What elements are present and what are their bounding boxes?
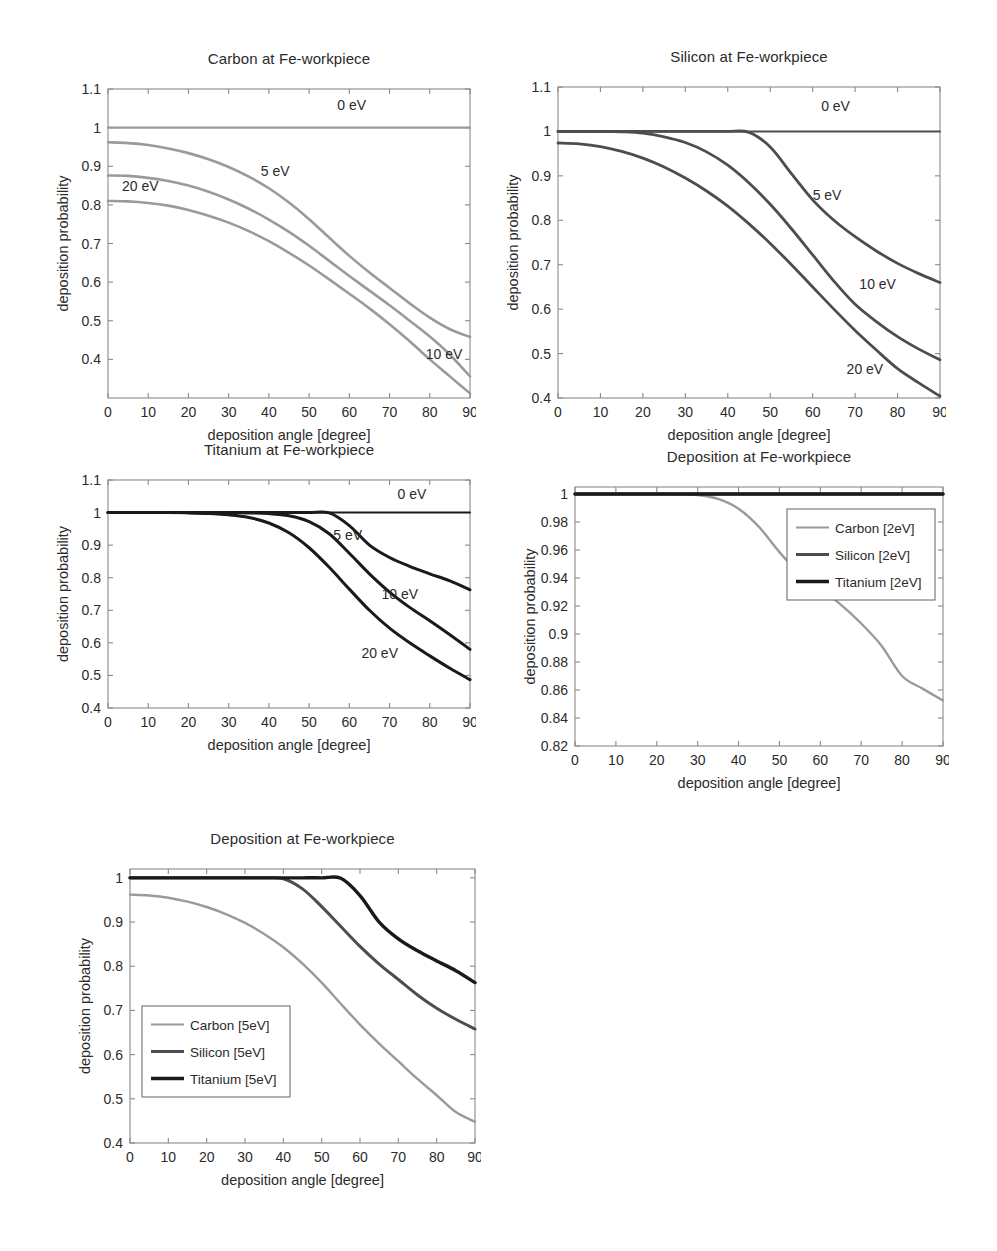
legend-label: Carbon [2eV] <box>835 521 915 536</box>
x-tick-label: 0 <box>554 404 562 420</box>
y-tick-label: 0.7 <box>532 257 552 273</box>
x-axis-label: deposition angle [degree] <box>208 737 371 753</box>
curve-annotation: 10 eV <box>382 586 419 602</box>
panel-title: Deposition at Fe-workpiece <box>130 830 475 847</box>
x-tick-label: 20 <box>635 404 651 420</box>
y-tick-label: 0.92 <box>541 598 568 614</box>
x-tick-label: 90 <box>462 714 476 730</box>
x-tick-label: 30 <box>678 404 694 420</box>
y-tick-label: 0.9 <box>549 626 569 642</box>
y-tick-label: 0.4 <box>532 390 552 406</box>
x-tick-label: 40 <box>276 1149 292 1165</box>
x-tick-label: 70 <box>382 714 398 730</box>
curve-annotation: 10 eV <box>859 276 896 292</box>
x-tick-label: 10 <box>593 404 609 420</box>
series-line <box>558 131 940 283</box>
series-line <box>108 201 470 393</box>
x-tick-label: 80 <box>890 404 906 420</box>
x-axis-label: deposition angle [degree] <box>221 1172 384 1188</box>
x-tick-label: 10 <box>161 1149 177 1165</box>
x-tick-label: 10 <box>140 714 156 730</box>
legend-label: Titanium [5eV] <box>190 1072 277 1087</box>
curve-annotation: 20 eV <box>847 361 884 377</box>
x-tick-label: 0 <box>571 752 579 768</box>
y-tick-label: 0.9 <box>82 537 102 553</box>
y-tick-label: 0.4 <box>104 1135 124 1151</box>
x-tick-label: 10 <box>140 404 156 420</box>
plot-area: 01020304050607080900.40.50.60.70.80.911.… <box>52 83 476 454</box>
legend-label: Silicon [2eV] <box>835 548 910 563</box>
x-tick-label: 20 <box>181 714 197 730</box>
y-tick-label: 0.88 <box>541 654 568 670</box>
panel-title: Silicon at Fe-workpiece <box>558 48 940 65</box>
x-tick-label: 10 <box>608 752 624 768</box>
series-line <box>130 877 475 983</box>
legend-label: Carbon [5eV] <box>190 1018 270 1033</box>
y-tick-label: 1 <box>560 486 568 502</box>
x-tick-label: 20 <box>199 1149 215 1165</box>
x-tick-label: 80 <box>422 714 438 730</box>
y-tick-label: 0.9 <box>104 914 124 930</box>
x-tick-label: 50 <box>301 714 317 730</box>
y-axis-label: deposition probability <box>55 525 71 662</box>
plot-area: 01020304050607080900.40.50.60.70.80.911.… <box>502 81 946 454</box>
x-tick-label: 40 <box>261 714 277 730</box>
series-line <box>108 512 470 590</box>
x-tick-label: 70 <box>382 404 398 420</box>
x-tick-label: 80 <box>894 752 910 768</box>
y-tick-label: 0.8 <box>82 570 102 586</box>
x-tick-label: 20 <box>181 404 197 420</box>
y-tick-label: 0.8 <box>532 212 552 228</box>
x-tick-label: 60 <box>805 404 821 420</box>
x-axis-label: deposition angle [degree] <box>678 775 841 791</box>
y-tick-label: 0.4 <box>82 700 102 716</box>
curve-annotation: 5 eV <box>813 187 842 203</box>
x-tick-label: 40 <box>261 404 277 420</box>
y-axis-label: deposition probability <box>77 937 93 1074</box>
y-tick-label: 0.84 <box>541 710 568 726</box>
curve-annotation: 0 eV <box>337 97 366 113</box>
plot-area: 01020304050607080900.40.50.60.70.80.911.… <box>52 474 476 764</box>
y-tick-label: 0.98 <box>541 514 568 530</box>
x-tick-label: 80 <box>422 404 438 420</box>
x-tick-label: 50 <box>772 752 788 768</box>
y-tick-label: 0.6 <box>82 274 102 290</box>
y-tick-label: 0.5 <box>532 346 552 362</box>
x-tick-label: 20 <box>649 752 665 768</box>
y-tick-label: 1.1 <box>82 474 102 488</box>
panel-title: Deposition at Fe-workpiece <box>575 448 943 465</box>
y-tick-label: 0.5 <box>82 313 102 329</box>
y-tick-label: 1 <box>93 120 101 136</box>
x-tick-label: 50 <box>301 404 317 420</box>
curve-annotation: 5 eV <box>261 163 290 179</box>
x-tick-label: 70 <box>853 752 869 768</box>
x-tick-label: 30 <box>221 404 237 420</box>
x-axis-label: deposition angle [degree] <box>668 427 831 443</box>
panel-title: Titanium at Fe-workpiece <box>108 441 470 458</box>
x-tick-label: 50 <box>762 404 778 420</box>
y-tick-label: 0.6 <box>104 1047 124 1063</box>
x-tick-label: 60 <box>352 1149 368 1165</box>
x-tick-label: 0 <box>126 1149 134 1165</box>
x-tick-label: 30 <box>221 714 237 730</box>
panel-title: Carbon at Fe-workpiece <box>108 50 470 67</box>
y-tick-label: 0.94 <box>541 570 568 586</box>
x-tick-label: 60 <box>342 714 358 730</box>
y-tick-label: 0.86 <box>541 682 568 698</box>
curve-annotation: 20 eV <box>122 178 159 194</box>
plot-area: 01020304050607080900.40.50.60.70.80.91de… <box>74 863 481 1199</box>
y-tick-label: 1.1 <box>82 83 102 97</box>
x-tick-label: 50 <box>314 1149 330 1165</box>
legend-label: Titanium [2eV] <box>835 575 922 590</box>
x-tick-label: 30 <box>237 1149 253 1165</box>
x-tick-label: 90 <box>932 404 946 420</box>
curve-annotation: 5 eV <box>333 527 362 543</box>
y-tick-label: 0.7 <box>82 602 102 618</box>
series-line <box>558 131 940 359</box>
y-tick-label: 0.5 <box>82 667 102 683</box>
y-tick-label: 0.6 <box>82 635 102 651</box>
x-tick-label: 30 <box>690 752 706 768</box>
y-tick-label: 0.7 <box>104 1002 124 1018</box>
y-axis-label: deposition probability <box>505 174 521 311</box>
x-tick-label: 90 <box>935 752 949 768</box>
